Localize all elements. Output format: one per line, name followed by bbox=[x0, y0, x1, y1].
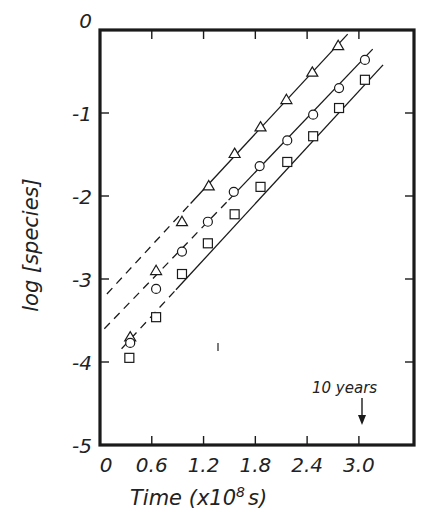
x-tick-label: 2.4 bbox=[291, 453, 323, 477]
circle-marker-icon bbox=[177, 247, 186, 256]
square-marker-icon bbox=[125, 353, 134, 362]
square-marker-icon bbox=[256, 182, 265, 191]
y-tick-label: -5 bbox=[72, 434, 92, 458]
circle-marker-icon bbox=[360, 55, 369, 64]
square-marker-icon bbox=[152, 313, 161, 322]
y-axis-label: log [species] bbox=[19, 178, 43, 312]
square-marker-icon bbox=[177, 270, 186, 279]
x-tick-label: 1.8 bbox=[239, 453, 271, 477]
x-axis-label-tail: s) bbox=[248, 486, 267, 510]
y-tick-label: -1 bbox=[72, 102, 92, 126]
fit-lines bbox=[104, 34, 383, 349]
data-markers bbox=[125, 40, 370, 362]
x-axis-ticks: 00.61.21.82.43.0 bbox=[100, 30, 375, 477]
annotation-label: 10 years bbox=[312, 379, 377, 397]
y-tick-label: -3 bbox=[72, 268, 92, 292]
x-tick-label: 1.2 bbox=[188, 453, 220, 477]
square-marker-icon bbox=[230, 210, 239, 219]
y-tick-label: -2 bbox=[72, 185, 92, 209]
square-marker-icon bbox=[335, 104, 344, 113]
x-tick-label: 0.6 bbox=[136, 453, 168, 477]
square-marker-icon bbox=[283, 157, 292, 166]
square-marker-icon bbox=[309, 132, 318, 141]
x-tick-label: 3.0 bbox=[343, 453, 375, 477]
circles-fit-line bbox=[229, 49, 373, 200]
circle-marker-icon bbox=[203, 217, 212, 226]
circle-marker-icon bbox=[335, 84, 344, 93]
square-marker-icon bbox=[360, 75, 369, 84]
arrow-down-icon bbox=[358, 415, 366, 425]
x-axis-label-exponent: 8 bbox=[236, 484, 245, 500]
ten-years-annotation: 10 years bbox=[312, 379, 377, 425]
triangle-marker-icon bbox=[229, 148, 240, 157]
triangle-marker-icon bbox=[333, 40, 344, 49]
triangle-marker-icon bbox=[203, 181, 214, 190]
circle-marker-icon bbox=[255, 162, 264, 171]
y-axis-title: log [species] bbox=[19, 178, 43, 312]
chart: 00.61.21.82.43.0 0-1-2-3-4-5 log [specie… bbox=[0, 0, 424, 518]
x-axis-label: Time (x108s) bbox=[130, 484, 267, 510]
circle-marker-icon bbox=[126, 338, 135, 347]
x-axis-label-main: Time (x10 bbox=[130, 486, 236, 510]
y-tick-label: -4 bbox=[72, 351, 92, 375]
square-marker-icon bbox=[203, 239, 212, 248]
circle-marker-icon bbox=[309, 110, 318, 119]
circle-marker-icon bbox=[283, 136, 292, 145]
triangle-marker-icon bbox=[151, 265, 162, 274]
y-tick-label: 0 bbox=[79, 9, 92, 33]
circle-marker-icon bbox=[229, 187, 238, 196]
circle-marker-icon bbox=[152, 284, 161, 293]
x-tick-label: 0 bbox=[100, 453, 113, 477]
triangles-fit-line bbox=[191, 34, 348, 203]
squares-fit-line bbox=[176, 65, 383, 290]
